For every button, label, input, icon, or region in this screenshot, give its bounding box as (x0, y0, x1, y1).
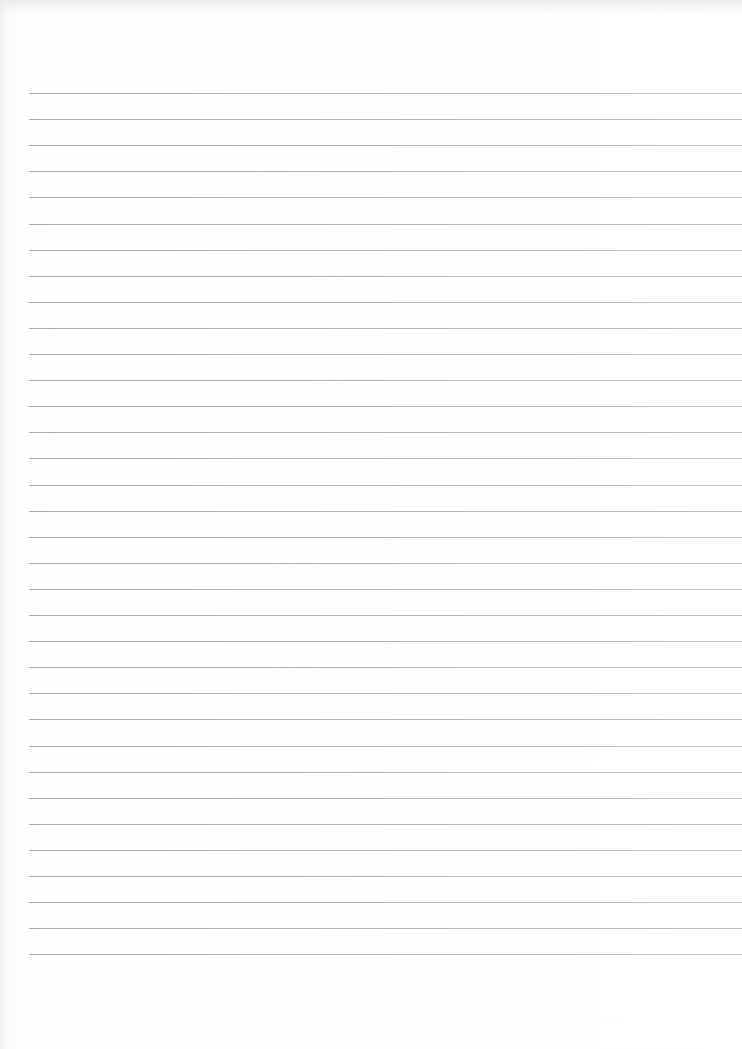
ruled-line (29, 197, 742, 198)
ruled-line (29, 772, 742, 773)
ruled-line (29, 224, 742, 225)
ruled-line (29, 902, 742, 903)
ruled-lines (0, 0, 742, 1049)
ruled-line (29, 667, 742, 668)
ruled-line (29, 328, 742, 329)
ruled-line (29, 276, 742, 277)
ruled-line (29, 537, 742, 538)
ruled-line (29, 589, 742, 590)
ruled-line (29, 250, 742, 251)
ruled-line (29, 458, 742, 459)
ruled-line (29, 615, 742, 616)
ruled-line (29, 485, 742, 486)
ruled-line (29, 380, 742, 381)
ruled-line (29, 406, 742, 407)
ruled-line (29, 93, 742, 94)
lined-paper-sheet (0, 0, 742, 1049)
ruled-line (29, 876, 742, 877)
ruled-line (29, 746, 742, 747)
ruled-line (29, 145, 742, 146)
ruled-line (29, 693, 742, 694)
ruled-line (29, 850, 742, 851)
ruled-line (29, 563, 742, 564)
ruled-line (29, 302, 742, 303)
ruled-line (29, 171, 742, 172)
ruled-line (29, 641, 742, 642)
ruled-line (29, 798, 742, 799)
ruled-line (29, 719, 742, 720)
ruled-line (29, 354, 742, 355)
ruled-line (29, 954, 742, 955)
ruled-line (29, 432, 742, 433)
ruled-line (29, 511, 742, 512)
ruled-line (29, 928, 742, 929)
ruled-line (29, 119, 742, 120)
ruled-line (29, 824, 742, 825)
